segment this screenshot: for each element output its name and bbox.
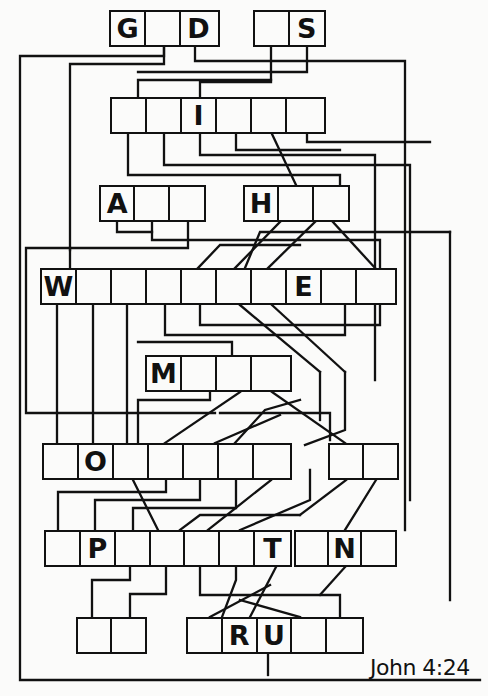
letter-cell[interactable] <box>279 187 313 220</box>
word-box-group: M <box>145 355 292 392</box>
letter-cell[interactable] <box>292 619 327 652</box>
letter-cell[interactable] <box>112 619 145 652</box>
letter-cell[interactable]: G <box>111 12 146 45</box>
letter-cell[interactable] <box>151 532 186 565</box>
word-box-group: A <box>99 185 206 222</box>
letter-cell[interactable] <box>116 532 151 565</box>
letter-cell[interactable] <box>255 12 290 45</box>
word-box-group: G D <box>109 10 220 47</box>
letter-cell[interactable] <box>364 445 397 478</box>
letter-cell[interactable] <box>219 445 254 478</box>
letter-cell[interactable] <box>217 270 252 303</box>
letter-cell[interactable] <box>114 445 149 478</box>
letter-cell[interactable]: S <box>290 12 324 45</box>
letter-cell[interactable] <box>78 619 112 652</box>
letter-cell[interactable] <box>184 445 219 478</box>
letter-cell[interactable] <box>217 99 252 132</box>
letter-cell[interactable]: H <box>245 187 279 220</box>
letter-cell[interactable] <box>112 99 147 132</box>
letter-cell[interactable]: T <box>255 532 290 565</box>
letter-cell[interactable] <box>314 187 348 220</box>
letter-cell[interactable] <box>149 445 184 478</box>
letter-cell[interactable] <box>327 619 362 652</box>
letter-cell[interactable] <box>322 270 357 303</box>
letter-cell[interactable] <box>185 532 220 565</box>
letter-cell[interactable] <box>135 187 169 220</box>
letter-cell[interactable]: I <box>182 99 217 132</box>
word-box-group: H <box>243 185 350 222</box>
letter-cell[interactable] <box>296 532 329 565</box>
letter-cell[interactable]: D <box>181 12 216 45</box>
letter-cell[interactable] <box>147 99 182 132</box>
letter-cell[interactable] <box>220 532 255 565</box>
letter-cell[interactable]: M <box>147 357 182 390</box>
word-box-group: I <box>110 97 326 134</box>
letter-cell[interactable] <box>330 445 364 478</box>
word-box-group: R U <box>186 617 364 654</box>
letter-cell[interactable] <box>146 12 181 45</box>
letter-cell[interactable]: P <box>81 532 116 565</box>
letter-cell[interactable] <box>252 99 287 132</box>
word-box-group: P T <box>44 530 292 567</box>
letter-cell[interactable] <box>170 187 204 220</box>
letter-cell[interactable] <box>182 357 217 390</box>
letter-cell[interactable] <box>252 357 287 390</box>
letter-cell[interactable]: O <box>79 445 114 478</box>
letter-cell[interactable]: E <box>287 270 322 303</box>
letter-cell[interactable]: U <box>258 619 293 652</box>
letter-cell[interactable] <box>46 532 81 565</box>
word-box-group <box>76 617 147 654</box>
letter-cell[interactable] <box>362 532 395 565</box>
letter-cell[interactable] <box>254 445 289 478</box>
word-box-group: O <box>42 443 292 480</box>
scripture-reference: John 4:24 <box>370 655 470 680</box>
letter-cell[interactable] <box>252 270 287 303</box>
word-box-group: S <box>253 10 326 47</box>
letter-cell[interactable]: A <box>101 187 135 220</box>
word-box-group <box>328 443 399 480</box>
letter-cell[interactable] <box>44 445 79 478</box>
word-box-group: W E <box>40 268 397 305</box>
letter-cell[interactable] <box>77 270 112 303</box>
letter-cell[interactable]: N <box>329 532 362 565</box>
letter-cell[interactable] <box>287 99 322 132</box>
letter-cell[interactable]: W <box>42 270 77 303</box>
letter-cell[interactable] <box>217 357 252 390</box>
letter-cell[interactable] <box>188 619 223 652</box>
word-box-group: N <box>294 530 397 567</box>
letter-cell[interactable] <box>357 270 392 303</box>
letter-cell[interactable] <box>182 270 217 303</box>
letter-cell[interactable] <box>147 270 182 303</box>
letter-cell[interactable]: R <box>223 619 258 652</box>
letter-cell[interactable] <box>112 270 147 303</box>
